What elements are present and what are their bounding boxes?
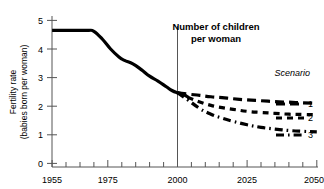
x-tick-label-1955: 1955 — [42, 175, 62, 185]
legend-label-2: 2 — [308, 113, 313, 123]
series-line-historical — [52, 30, 189, 97]
chart-title-line1: Number of children — [172, 21, 259, 32]
y-tick-label-1: 1 — [38, 130, 43, 140]
y-tick-label-2: 2 — [38, 102, 43, 112]
x-tick-label-2000: 2000 — [167, 175, 187, 185]
legend-label-3: 3 — [308, 130, 313, 140]
chart-canvas: Fertility rate (babies born per woman) 5… — [0, 0, 324, 189]
y-tick-label-5: 5 — [38, 16, 43, 26]
chart-title: Number of children per woman — [172, 21, 259, 44]
y-axis-label-line1: Fertility rate — [8, 70, 18, 115]
x-tick-label-2025: 2025 — [237, 175, 257, 185]
y-tick-label-0: 0 — [38, 159, 43, 169]
x-tick-label-1975: 1975 — [98, 175, 118, 185]
x-axis-tick-labels: 1955 1975 2000 2025 2050 — [42, 175, 324, 185]
y-axis-label: Fertility rate (babies born per woman) — [8, 45, 29, 140]
series-line-scenario-3 — [177, 93, 316, 132]
x-axis-minor-ticks — [66, 162, 303, 167]
legend-title: Scenario — [274, 68, 310, 78]
x-tick-label-2050: 2050 — [304, 175, 324, 185]
fertility-rate-chart: Fertility rate (babies born per woman) 5… — [0, 0, 324, 189]
legend-label-1: 1 — [308, 99, 313, 109]
x-axis-major-ticks — [52, 160, 317, 167]
y-tick-label-3: 3 — [38, 73, 43, 83]
axes — [52, 16, 318, 167]
y-axis-ticks: 5 4 3 2 1 0 — [38, 16, 57, 169]
chart-title-line2: per woman — [191, 33, 241, 44]
y-tick-label-4: 4 — [38, 45, 43, 55]
y-axis-label-line2: (babies born per woman) — [19, 45, 29, 140]
